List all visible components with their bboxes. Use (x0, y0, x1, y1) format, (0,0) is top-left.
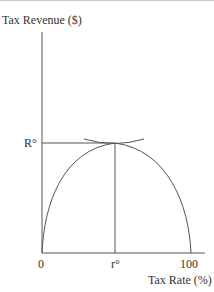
laffer-curve (42, 143, 191, 253)
laffer-diagram (0, 0, 214, 292)
